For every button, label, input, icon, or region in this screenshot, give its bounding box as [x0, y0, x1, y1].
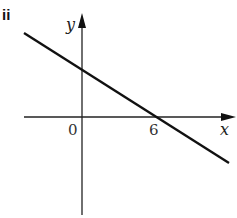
- x-axis-label: x: [220, 120, 229, 139]
- graph-diagram: ii y 0 6 x: [0, 0, 237, 218]
- part-label: ii: [2, 6, 10, 23]
- origin-label: 0: [68, 121, 78, 139]
- y-axis-arrow-icon: [78, 13, 86, 28]
- x-intercept-label: 6: [149, 121, 159, 139]
- graph-line: [24, 33, 229, 163]
- y-axis-label: y: [65, 15, 76, 34]
